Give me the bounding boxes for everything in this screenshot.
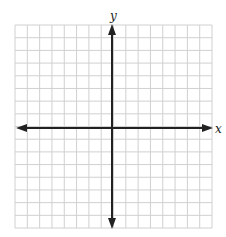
x-axis-label: x — [215, 123, 222, 135]
x-axis-right-arrow-icon — [202, 124, 213, 132]
coordinate-plane — [0, 0, 226, 237]
y-axis-up-arrow-icon — [108, 24, 116, 35]
y-axis-label: y — [110, 10, 117, 22]
y-axis-down-arrow-icon — [108, 218, 116, 229]
x-axis-left-arrow-icon — [16, 124, 27, 132]
